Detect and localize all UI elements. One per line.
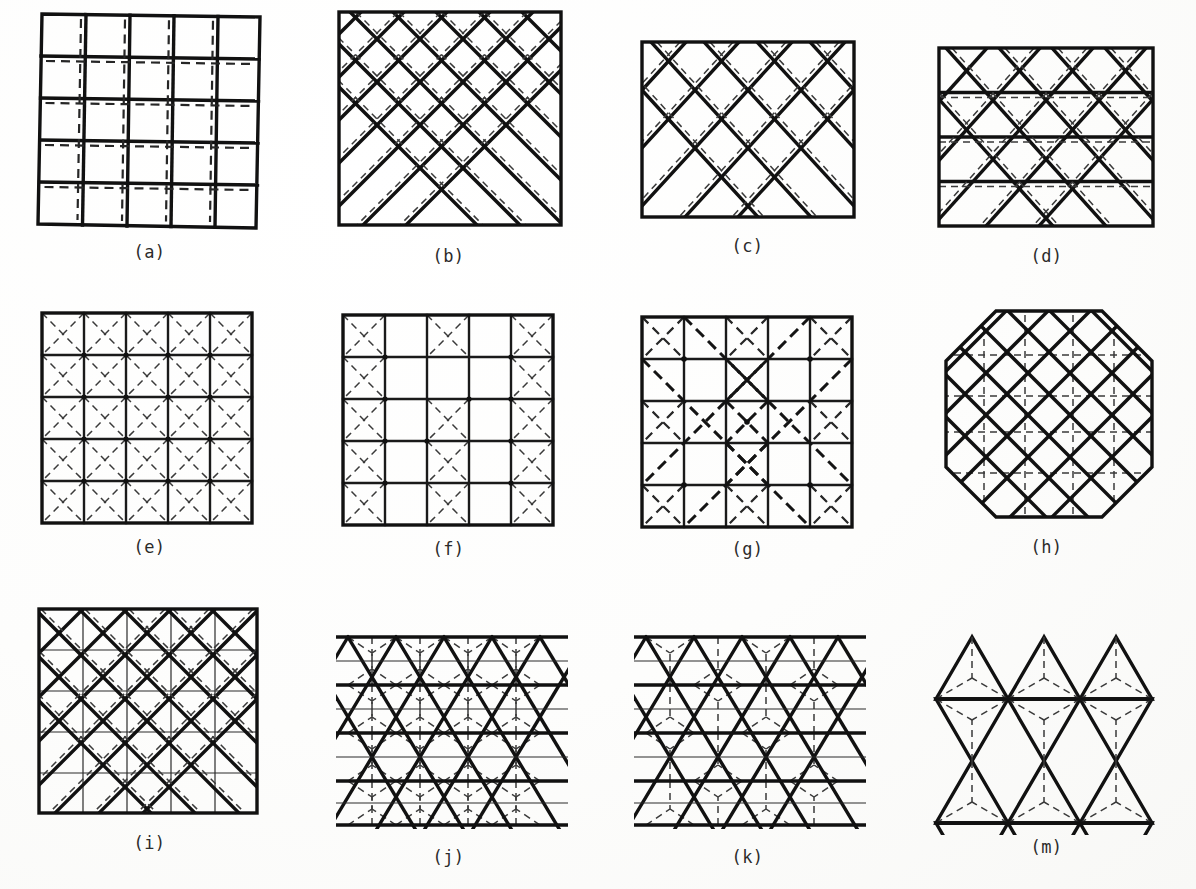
caption-i: (i) <box>133 835 165 852</box>
figure-b <box>324 4 574 236</box>
rhombic-lattice-c <box>628 42 868 217</box>
x-braced-square-grid-e <box>42 313 252 523</box>
figure-d <box>927 40 1167 236</box>
triangle-centroid-bracing-m <box>936 637 1152 823</box>
figure-panel-grid: (a) <box>0 0 1196 889</box>
panel-c: (c) <box>598 0 897 285</box>
triangle-members-j <box>326 637 576 835</box>
caption-m: (m) <box>1030 839 1062 856</box>
square-grid-dashed-secondary <box>44 19 254 222</box>
checker-braced-grid-f <box>343 315 553 525</box>
caption-j: (j) <box>432 849 464 866</box>
figure-a <box>24 6 264 234</box>
panel-g: (g) <box>598 285 897 585</box>
panel-a: (a) <box>0 0 299 285</box>
figure-f <box>331 307 567 529</box>
figure-c <box>628 34 868 226</box>
triangular-alt-centroid-lattice-k <box>624 637 874 835</box>
panel-i: (i) <box>0 585 299 889</box>
panel-m: (m) <box>897 585 1196 889</box>
joint-dots-g <box>681 356 813 488</box>
panel-b: (b) <box>299 0 598 285</box>
diagonal-plus-ortho-lattice-i <box>27 609 265 823</box>
caption-a: (a) <box>133 244 165 261</box>
figure-h <box>930 303 1168 531</box>
panel-f: (f) <box>299 285 598 585</box>
panel-e: (e) <box>0 285 299 585</box>
caption-f: (f) <box>432 541 464 558</box>
figure-k <box>624 625 874 835</box>
figure-e <box>28 303 266 529</box>
triangle-members-k <box>624 637 874 835</box>
diagonal-band-braced-grid-g <box>642 317 852 527</box>
square-grid-solid <box>38 14 260 228</box>
panel-j: (j) <box>299 585 598 889</box>
caption-h: (h) <box>1030 539 1062 556</box>
figure-i <box>27 599 265 823</box>
triangular-centroid-lattice-j <box>326 637 576 835</box>
caption-b: (b) <box>432 248 464 265</box>
octagon-lattice-h <box>930 303 1168 531</box>
caption-k: (k) <box>731 849 763 866</box>
panel-h: (h) <box>897 285 1196 585</box>
caption-g: (g) <box>731 541 763 558</box>
bracing-f <box>343 315 553 525</box>
caption-c: (c) <box>731 238 763 255</box>
panel-d: (d) <box>897 0 1196 285</box>
diagonal-lattice-b <box>324 12 574 236</box>
figure-m <box>924 621 1174 835</box>
figure-j <box>326 625 576 835</box>
panel-k: (k) <box>598 585 897 889</box>
caption-d: (d) <box>1030 248 1062 265</box>
caption-e: (e) <box>133 539 165 556</box>
figure-g <box>630 311 866 529</box>
kagome-lattice-m <box>936 637 1152 835</box>
triangular-lattice-d <box>927 48 1167 226</box>
